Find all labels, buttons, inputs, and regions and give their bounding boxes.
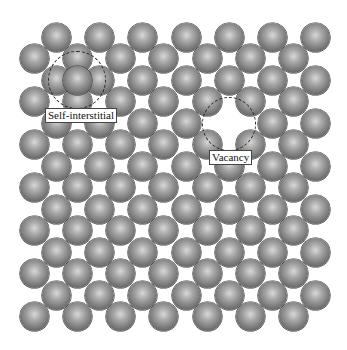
lattice-atom bbox=[215, 195, 244, 224]
lattice-atom bbox=[85, 238, 114, 267]
lattice-atom bbox=[215, 281, 244, 310]
lattice-atom bbox=[193, 216, 222, 245]
lattice-atom bbox=[42, 152, 71, 181]
lattice-atom bbox=[149, 87, 178, 116]
crystal-lattice-diagram bbox=[0, 0, 347, 350]
lattice-atom bbox=[279, 87, 308, 116]
lattice-atom bbox=[258, 238, 287, 267]
vacancy-dashed-circle bbox=[202, 97, 256, 151]
lattice-atom bbox=[20, 216, 49, 245]
lattice-atom bbox=[42, 281, 71, 310]
lattice-atom bbox=[85, 281, 114, 310]
lattice-atom bbox=[85, 152, 114, 181]
lattice-atom bbox=[279, 44, 308, 73]
lattice-atom bbox=[279, 130, 308, 159]
lattice-atom bbox=[20, 173, 49, 202]
lattice-atom bbox=[128, 152, 157, 181]
lattice-atom bbox=[63, 173, 92, 202]
lattice-atom bbox=[301, 281, 330, 310]
lattice-atom bbox=[149, 216, 178, 245]
lattice-atom bbox=[258, 152, 287, 181]
lattice-atom bbox=[172, 152, 201, 181]
lattice-atom bbox=[20, 259, 49, 288]
lattice-atom bbox=[215, 66, 244, 95]
lattice-atom bbox=[279, 302, 308, 331]
lattice-atom bbox=[128, 281, 157, 310]
lattice-atom bbox=[63, 302, 92, 331]
lattice-atom bbox=[301, 109, 330, 138]
lattice-atom bbox=[236, 173, 265, 202]
lattice-atom bbox=[172, 23, 201, 52]
lattice-atom bbox=[106, 173, 135, 202]
lattice-atom bbox=[172, 109, 201, 138]
lattice-atom bbox=[20, 302, 49, 331]
lattice-atom bbox=[172, 238, 201, 267]
lattice-atom bbox=[193, 259, 222, 288]
lattice-atom bbox=[128, 238, 157, 267]
lattice-atom bbox=[128, 195, 157, 224]
lattice-atom bbox=[215, 238, 244, 267]
lattice-atom bbox=[172, 66, 201, 95]
lattice-atom bbox=[106, 259, 135, 288]
lattice-atom bbox=[42, 238, 71, 267]
lattice-atom bbox=[20, 44, 49, 73]
lattice-atom bbox=[279, 216, 308, 245]
lattice-atom bbox=[149, 130, 178, 159]
lattice-atom bbox=[301, 152, 330, 181]
lattice-atom bbox=[128, 109, 157, 138]
lattice-atom bbox=[258, 109, 287, 138]
lattice-atom bbox=[236, 44, 265, 73]
lattice-atom bbox=[258, 195, 287, 224]
lattice-atom bbox=[128, 23, 157, 52]
lattice-atom bbox=[172, 195, 201, 224]
lattice-atom bbox=[258, 66, 287, 95]
lattice-atom bbox=[301, 66, 330, 95]
lattice-atom bbox=[63, 259, 92, 288]
lattice-atom bbox=[42, 195, 71, 224]
lattice-atom bbox=[258, 23, 287, 52]
lattice-atom bbox=[106, 130, 135, 159]
lattice-atom bbox=[301, 23, 330, 52]
lattice-atom bbox=[149, 302, 178, 331]
vacancy-label: Vacancy bbox=[209, 150, 252, 165]
lattice-atom bbox=[63, 216, 92, 245]
self-interstitial-dashed-circle bbox=[48, 51, 106, 109]
self-interstitial-label: Self-interstitial bbox=[45, 108, 117, 123]
lattice-atom bbox=[193, 302, 222, 331]
lattice-atom bbox=[172, 281, 201, 310]
lattice-atom bbox=[215, 23, 244, 52]
lattice-atom bbox=[279, 259, 308, 288]
lattice-atom bbox=[85, 23, 114, 52]
lattice-atom bbox=[193, 44, 222, 73]
lattice-atom bbox=[85, 195, 114, 224]
lattice-atom bbox=[258, 281, 287, 310]
lattice-atom bbox=[106, 44, 135, 73]
lattice-atom bbox=[20, 130, 49, 159]
lattice-atom bbox=[149, 44, 178, 73]
lattice-atom bbox=[128, 66, 157, 95]
lattice-atom bbox=[63, 130, 92, 159]
lattice-atom bbox=[193, 173, 222, 202]
lattice-atom bbox=[149, 173, 178, 202]
lattice-atom bbox=[301, 195, 330, 224]
lattice-atom bbox=[236, 302, 265, 331]
lattice-atom bbox=[106, 216, 135, 245]
lattice-atom bbox=[236, 216, 265, 245]
lattice-atom bbox=[149, 259, 178, 288]
lattice-atom bbox=[279, 173, 308, 202]
lattice-atom bbox=[42, 23, 71, 52]
lattice-atom bbox=[106, 302, 135, 331]
lattice-atom bbox=[236, 259, 265, 288]
lattice-atom bbox=[301, 238, 330, 267]
